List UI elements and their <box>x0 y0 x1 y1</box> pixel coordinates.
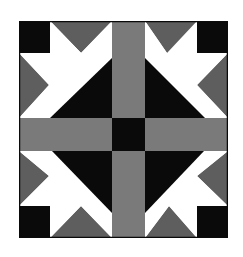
corner-square-bottom-right <box>197 206 228 238</box>
corner-square-top-left <box>19 21 50 53</box>
corner-square-top-right <box>197 21 228 53</box>
quadrant-bottom-right <box>145 151 228 238</box>
quadrant-bottom-left <box>19 151 112 238</box>
center-square <box>112 118 145 151</box>
quadrant-top-left <box>19 21 112 118</box>
quilt-block-svg <box>19 21 228 238</box>
quilt-block <box>19 21 228 238</box>
corner-square-bottom-left <box>19 206 50 238</box>
